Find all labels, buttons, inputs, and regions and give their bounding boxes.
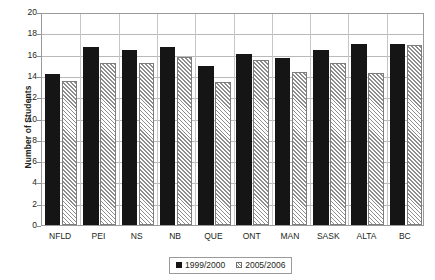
bar	[253, 60, 269, 225]
bar	[368, 73, 384, 225]
x-axis-tick-label: MAN	[271, 231, 309, 241]
x-axis-tick-label: NFLD	[41, 231, 79, 241]
y-axis-tick-label: 4	[9, 178, 37, 187]
y-axis-tick-mark	[37, 226, 41, 227]
category-separator	[272, 14, 273, 225]
bar	[330, 63, 346, 225]
bar	[292, 72, 308, 225]
y-axis-tick-label: 20	[9, 8, 37, 17]
y-axis-tick-label: 10	[9, 115, 37, 124]
bar	[122, 50, 138, 225]
bar	[45, 74, 61, 225]
y-axis-tick-label: 6	[9, 157, 37, 166]
x-axis-tick-label: NB	[156, 231, 194, 241]
x-axis-tick-label: NS	[118, 231, 156, 241]
bar	[236, 54, 252, 225]
category-separator	[157, 14, 158, 225]
bar-chart: Number of Students 20181614121086420 NFL…	[0, 0, 435, 280]
legend-item: 1999/2000	[176, 260, 225, 270]
bar	[177, 57, 193, 225]
y-axis-tick-label: 12	[9, 93, 37, 102]
category-separator	[387, 14, 388, 225]
x-axis-tick-label: QUE	[194, 231, 232, 241]
solid-black-square-icon	[176, 262, 182, 268]
category-separator	[348, 14, 349, 225]
x-axis-tick-label: BC	[386, 231, 424, 241]
category-separator	[80, 14, 81, 225]
bar	[313, 50, 329, 225]
legend-item-label: 2005/2006	[245, 260, 285, 270]
bar	[407, 45, 423, 225]
y-axis-tick-label: 2	[9, 200, 37, 209]
hatched-square-icon	[236, 262, 242, 268]
category-separator	[310, 14, 311, 225]
bar	[275, 58, 291, 225]
bar	[198, 66, 214, 225]
bars-layer	[42, 14, 423, 225]
y-axis-tick-label: 8	[9, 136, 37, 145]
category-separator	[119, 14, 120, 225]
y-axis-tick-label: 18	[9, 29, 37, 38]
legend: 1999/2000 2005/2006	[169, 257, 292, 274]
bar	[100, 63, 116, 225]
bar	[139, 63, 155, 225]
legend-item-label: 1999/2000	[185, 260, 225, 270]
bar	[215, 82, 231, 225]
bar	[351, 44, 367, 225]
x-axis-tick-label: SASK	[309, 231, 347, 241]
y-axis-tick-label: 0	[9, 221, 37, 230]
bar	[62, 81, 78, 225]
y-axis-tick-label: 14	[9, 72, 37, 81]
x-axis-tick-label: PEI	[79, 231, 117, 241]
x-axis-tick-label: ALTA	[347, 231, 385, 241]
category-separator	[195, 14, 196, 225]
x-axis-tick-label: ONT	[233, 231, 271, 241]
y-axis-tick-label: 16	[9, 51, 37, 60]
bar	[390, 44, 406, 225]
bar	[83, 47, 99, 225]
bar	[160, 47, 176, 225]
plot-area	[41, 13, 424, 226]
category-separator	[234, 14, 235, 225]
legend-item: 2005/2006	[236, 260, 285, 270]
